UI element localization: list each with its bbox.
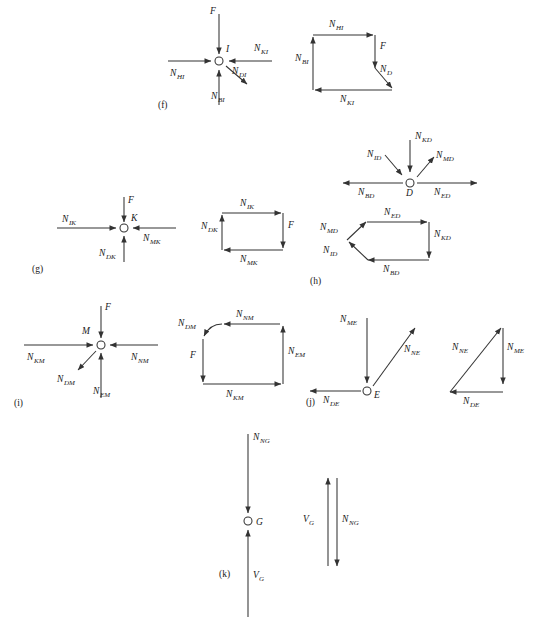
panel-i-joint-diagram: F N KM N NM N EM N DM M bbox=[24, 302, 158, 399]
vector-label-N-DK-base: N bbox=[98, 248, 106, 258]
vector-N-MD bbox=[417, 157, 434, 177]
panel-h-force-polygon: N ED N KD N BD N ID N MD bbox=[319, 207, 451, 277]
vector-label-N-EM-sub: EM bbox=[99, 391, 111, 399]
vector-label-F: F bbox=[209, 6, 216, 16]
polygon-label-N-NE-base: N bbox=[451, 342, 459, 352]
vector-label-F-i: F bbox=[104, 302, 111, 312]
polygon-label-N-ID-base: N bbox=[322, 245, 330, 255]
joint-node-M bbox=[97, 341, 105, 349]
polygon-label-F: F bbox=[379, 41, 386, 51]
vector-label-N-KI-base: N bbox=[253, 43, 261, 53]
polygon-label-N-DE-sub: DE bbox=[469, 401, 480, 409]
joint-node-label-I: I bbox=[225, 44, 230, 54]
vector-label-N-ID-base: N bbox=[366, 149, 374, 159]
polygon-label-N-BD-sub: BD bbox=[390, 269, 399, 277]
vector-label-N-ID-sub: ID bbox=[373, 154, 381, 162]
polygon-label-N-KM-sub: KM bbox=[232, 394, 245, 402]
polygon-label-N-KI-sub: KI bbox=[346, 99, 355, 107]
panel-label-i: (i) bbox=[14, 398, 23, 409]
polygon-label-N-NM-base: N bbox=[235, 309, 243, 319]
polygon-label-N-BI-base: N bbox=[294, 53, 302, 63]
joint-node-I bbox=[215, 57, 223, 65]
vector-label-N-DM-sub: DM bbox=[63, 379, 76, 387]
polygon-label-N-HI-base: N bbox=[328, 19, 336, 29]
vector-label-N-HI-sub: HI bbox=[176, 73, 185, 81]
polygon-label-N-KD-sub: KD bbox=[440, 234, 451, 242]
panel-h: (h) N KD N ID N MD N BD N bbox=[310, 131, 477, 287]
polygon-edge-N-DM bbox=[204, 324, 222, 336]
vector-label-N-NG-sub: NG bbox=[259, 437, 270, 445]
polygon-label-N-MK-base: N bbox=[239, 254, 247, 264]
vector-label-N-BI-sub: BI bbox=[218, 96, 225, 104]
polygon-label-N-EM-base: N bbox=[287, 346, 295, 356]
polygon-label-N-IK-sub: IK bbox=[246, 203, 254, 211]
vector-N-DM bbox=[78, 351, 96, 370]
vector-label-N-BD-base: N bbox=[357, 187, 365, 197]
polygon-label-N-NE-sub: NE bbox=[458, 347, 469, 355]
panel-j: (j) N ME N NE N DE E N bbox=[306, 314, 525, 409]
polygon-label-N-D-base: N bbox=[379, 64, 387, 74]
polygon-label-N-ME-sub: ME bbox=[513, 347, 525, 355]
vector-label-N-ME-base: N bbox=[339, 314, 347, 324]
vector-label-N-BI-base: N bbox=[210, 91, 218, 101]
panel-k: (k) N NG V G G V G N bbox=[219, 432, 359, 617]
force-polygon-svg: (f) F N HI N KI N BI N DI bbox=[0, 0, 540, 631]
vector-label-N-NM-sub: NM bbox=[137, 357, 150, 365]
vector-label-N-ME-sub: ME bbox=[346, 319, 358, 327]
panel-label-f: (f) bbox=[158, 100, 168, 111]
vector-label-N-KD-sub: KD bbox=[421, 136, 432, 144]
vector-label-N-DI-base: N bbox=[231, 66, 239, 76]
vector-N-NE bbox=[373, 328, 415, 386]
polygon-label-N-DK-base: N bbox=[200, 221, 208, 231]
vector-label-N-MK-base: N bbox=[142, 233, 150, 243]
panel-label-g: (g) bbox=[32, 264, 43, 275]
panel-label-h: (h) bbox=[310, 276, 321, 287]
vector-label-N-NG-base: N bbox=[252, 432, 260, 442]
polygon-label-N-MK-sub: MK bbox=[246, 259, 258, 267]
polygon-label-N-KI-base: N bbox=[339, 94, 347, 104]
panel-f-force-polygon: N HI F N D N KI N BI bbox=[294, 19, 392, 107]
joint-node-G bbox=[244, 517, 252, 525]
panel-j-force-polygon: N NE N ME N DE bbox=[450, 328, 525, 409]
vector-label-N-MD-base: N bbox=[435, 150, 443, 160]
polygon-label-N-IK-base: N bbox=[239, 198, 247, 208]
vector-label-N-KM-base: N bbox=[26, 352, 34, 362]
vector-label-N-NE-sub: NE bbox=[410, 349, 421, 357]
polygon-label-N-HI-sub: HI bbox=[335, 24, 344, 32]
vector-label-N-DK-sub: DK bbox=[105, 253, 116, 261]
panel-j-joint-diagram: N ME N NE N DE E bbox=[310, 314, 421, 408]
vector-label-N-NE-base: N bbox=[403, 344, 411, 354]
vector-label-N-IK-sub: IK bbox=[68, 219, 76, 227]
polygon-label-N-ED-base: N bbox=[383, 207, 391, 217]
vector-N-ID bbox=[385, 155, 402, 175]
panel-k-force-polygon: V G N NG bbox=[303, 478, 359, 566]
polygon-label-N-KD-base: N bbox=[433, 229, 441, 239]
polygon-label-N-NM-sub: NM bbox=[242, 314, 255, 322]
polygon-label-N-ID-sub: ID bbox=[329, 250, 337, 258]
polygon-label-N-NG-base: N bbox=[341, 514, 349, 524]
panel-h-joint-diagram: N KD N ID N MD N BD N ED D bbox=[343, 131, 477, 200]
vector-label-N-KD-base: N bbox=[414, 131, 422, 141]
figure-canvas: (f) F N HI N KI N BI N DI bbox=[0, 0, 540, 631]
vector-label-N-DE-sub: DE bbox=[329, 400, 340, 408]
vector-label-N-DM-base: N bbox=[56, 374, 64, 384]
panel-i-force-polygon: N NM N DM F N KM N EM bbox=[177, 309, 306, 402]
vector-label-N-MK-sub: MK bbox=[149, 238, 161, 246]
panel-g: (g) F N IK N MK N DK K bbox=[32, 195, 294, 275]
vector-label-F-g: F bbox=[127, 195, 134, 205]
polygon-label-N-ME-base: N bbox=[506, 342, 514, 352]
vector-label-N-ED-base: N bbox=[433, 187, 441, 197]
polygon-label-N-ED-sub: ED bbox=[390, 212, 400, 220]
polygon-label-N-DM-sub: DM bbox=[184, 323, 197, 331]
polygon-edge-N-ID bbox=[349, 242, 368, 260]
joint-node-K bbox=[120, 224, 128, 232]
vector-label-N-KM-sub: KM bbox=[33, 357, 46, 365]
panel-f: (f) F N HI N KI N BI N DI bbox=[158, 6, 392, 111]
panel-f-joint-diagram: F N HI N KI N BI N DI I bbox=[168, 6, 272, 105]
polygon-label-V-G-sub: G bbox=[309, 519, 314, 527]
polygon-label-N-MD-base: N bbox=[319, 222, 327, 232]
polygon-label-N-BI-sub: BI bbox=[302, 58, 309, 66]
vector-label-N-MD-sub: MD bbox=[442, 155, 454, 163]
joint-node-label-E: E bbox=[373, 390, 380, 400]
polygon-label-N-MD-sub: MD bbox=[326, 227, 338, 235]
